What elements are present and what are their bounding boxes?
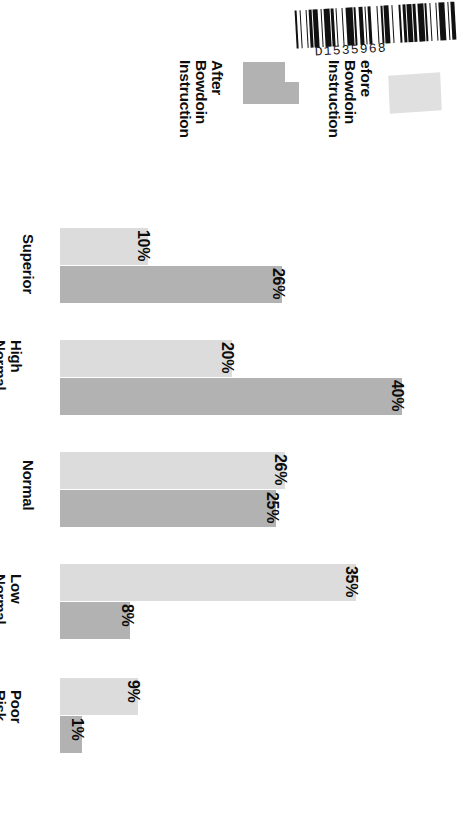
legend-label-after: After Bowdoin Instruction [178, 60, 225, 138]
bar-group: Normal26%25% [0, 452, 463, 538]
bar-value-before: 26% [271, 454, 289, 485]
bar-value-before: 9% [124, 680, 142, 703]
bar-after [60, 378, 402, 415]
bar-before [60, 564, 356, 601]
bar-group: Poor Risk9%1% [0, 678, 463, 764]
barcode: D1535968 [295, 2, 460, 67]
bar-before [60, 452, 285, 489]
category-label: Poor Risk [0, 690, 24, 723]
bar-group: High Normal20%40% [0, 340, 463, 426]
category-label: Normal [20, 460, 36, 510]
legend-label-before: efore Bowdoin Instruction [327, 60, 374, 138]
bar-value-after: 25% [263, 492, 281, 523]
bar-group: Superior10%26% [0, 228, 463, 314]
category-label: Superior [20, 234, 36, 294]
bar-value-after: 8% [118, 604, 136, 627]
bar-value-after: 40% [388, 380, 406, 411]
barcode-number: D1535968 [314, 40, 387, 59]
category-label: Low Normal [0, 574, 24, 624]
bar-value-before: 10% [134, 230, 152, 261]
bar-after [60, 266, 282, 303]
bar-chart-plot: Superior10%26%High Normal20%40%Normal26%… [0, 212, 463, 831]
bar-before [60, 340, 232, 377]
bar-after [60, 490, 276, 527]
scanned-page: D1535968 After Bowdoin Instruction efore… [0, 0, 463, 831]
legend-swatch-before [388, 72, 442, 114]
bar-group: Low Normal35%8% [0, 564, 463, 650]
bar-value-after: 26% [269, 268, 287, 299]
bar-value-before: 20% [218, 342, 236, 373]
bar-value-before: 35% [342, 566, 360, 597]
category-label: High Normal [0, 340, 24, 390]
legend-swatch-after [243, 62, 285, 104]
bar-value-after: 1% [68, 718, 86, 741]
